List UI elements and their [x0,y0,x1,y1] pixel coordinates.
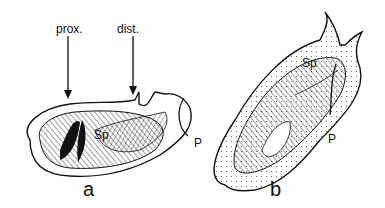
panel-b-drawing [214,12,362,191]
p-label-a: P [194,136,202,150]
panel-a-drawing [27,36,191,176]
sp-label-b: Sp [302,56,317,70]
prox-label: prox. [56,22,83,36]
sp-label-a: Sp [94,128,109,142]
dist-label: dist. [117,22,139,36]
panel-b-label: b [270,178,281,201]
panel-a-label: a [83,178,94,201]
p-label-b: P [328,132,336,146]
